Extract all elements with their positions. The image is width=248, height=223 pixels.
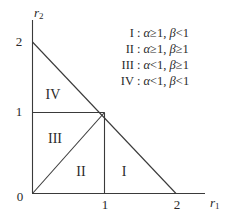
legend-condition: α<1, β≥1: [143, 57, 188, 73]
legend-key: I: [108, 25, 134, 41]
x-tick-2: 2: [170, 198, 184, 211]
legend-separator: :: [134, 25, 143, 41]
legend-beta-value: 1: [183, 26, 189, 40]
x-tick-1: 1: [98, 198, 112, 211]
legend-beta-operator: <: [176, 74, 183, 88]
legend-row: IV : α<1, β<1: [108, 73, 189, 89]
legend-alpha-operator: ≥: [150, 26, 157, 40]
legend-row: II : α≥1, β≥1: [108, 41, 189, 57]
region-label-iv: IV: [40, 88, 66, 102]
legend-beta-value: 1: [183, 42, 189, 56]
legend-beta-value: 1: [183, 58, 189, 72]
legend-separator: :: [134, 73, 143, 89]
region-label-ii: II: [70, 165, 92, 179]
legend-separator: :: [134, 57, 143, 73]
legend-key: IV: [108, 73, 134, 89]
legend-key: III: [108, 57, 134, 73]
legend-separator: :: [134, 41, 143, 57]
y-axis-label-subscript: 2: [39, 11, 44, 21]
legend-condition: α≥1, β<1: [143, 25, 188, 41]
legend-condition: α≥1, β≥1: [143, 41, 188, 57]
legend-condition: α<1, β<1: [143, 73, 189, 89]
region-label-iii: III: [40, 132, 70, 146]
legend-beta-operator: <: [176, 26, 183, 40]
y-axis-label: r2: [34, 6, 44, 19]
legend-row: III : α<1, β≥1: [108, 57, 189, 73]
legend-beta-value: 1: [183, 74, 189, 88]
y-tick-2: 2: [12, 35, 26, 48]
x-axis-label: r1: [210, 196, 220, 209]
origin-tick-0: 0: [13, 190, 27, 203]
legend-row: I : α≥1, β<1: [108, 25, 189, 41]
region-diagram-figure: r2 r1 2 1 0 1 2 IV III II I I : α≥1, β<1…: [0, 0, 248, 223]
y-tick-1: 1: [12, 105, 26, 118]
boundary-diagonal: [33, 113, 105, 194]
legend-beta-operator: ≥: [176, 42, 183, 56]
legend-beta-operator: ≥: [176, 58, 183, 72]
x-axis-label-subscript: 1: [215, 201, 220, 211]
region-label-i: I: [116, 165, 132, 179]
legend-alpha-operator: ≥: [150, 42, 157, 56]
legend-key: II: [108, 41, 134, 57]
legend: I : α≥1, β<1 II : α≥1, β≥1 III : α<1, β≥…: [108, 25, 189, 89]
